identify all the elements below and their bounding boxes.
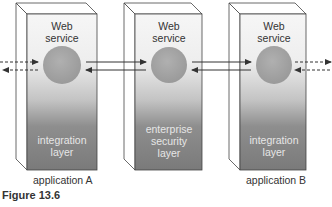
web-service-circle-icon: [43, 46, 81, 84]
layer-label-3: layer: [158, 147, 181, 159]
box-side-face: [16, 3, 27, 170]
layer-label-1: enterprise: [146, 123, 193, 135]
service-label: service: [257, 32, 290, 44]
box-top-face: [229, 3, 306, 14]
caption-application-a: application A: [33, 174, 93, 186]
figure-caption: Figure 13.6: [2, 189, 60, 201]
web-service-circle-icon: [151, 47, 187, 83]
web-label: Web: [263, 20, 285, 32]
layer-label-2: layer: [51, 146, 74, 158]
web-service-circle-icon: [256, 46, 292, 84]
service-label: service: [152, 32, 185, 44]
layer-label-1: integration: [249, 134, 298, 146]
layer-label-2: security: [151, 135, 188, 147]
box-application-b: Web service integration layer: [229, 3, 306, 170]
web-label: Web: [51, 20, 73, 32]
box-application-a: Web service integration layer: [16, 3, 97, 170]
box-top-face: [16, 3, 97, 14]
box-top-face: [124, 3, 202, 14]
service-label: service: [45, 32, 78, 44]
web-label: Web: [158, 20, 180, 32]
box-side-face: [229, 3, 240, 170]
box-enterprise-security: Web service enterprise security layer: [124, 3, 202, 170]
caption-application-b: application B: [246, 174, 306, 186]
layer-label-2: layer: [263, 146, 286, 158]
box-side-face: [124, 3, 135, 170]
layer-label-1: integration: [37, 134, 86, 146]
